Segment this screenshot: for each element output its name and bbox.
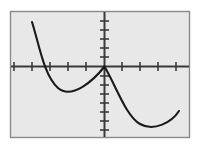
graph-container: [0, 0, 201, 148]
coordinate-plot: [0, 0, 201, 148]
